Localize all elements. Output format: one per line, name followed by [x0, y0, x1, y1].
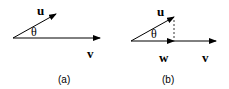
- vector-v-label: v: [202, 50, 209, 65]
- panel-a: u θ v (a): [13, 3, 100, 85]
- vector-u-label: u: [157, 4, 164, 19]
- vector-projection-diagram: u θ v (a) u θ w v (b): [0, 0, 229, 89]
- vector-w-label: w: [159, 50, 169, 65]
- vector-v-label: v: [87, 46, 94, 61]
- panel-a-caption: (a): [58, 74, 70, 85]
- angle-theta-label: θ: [31, 25, 37, 39]
- vector-u-label: u: [37, 3, 44, 18]
- panel-b: u θ w v (b): [131, 4, 216, 85]
- panel-b-caption: (b): [162, 74, 174, 85]
- angle-theta-label: θ: [151, 27, 157, 41]
